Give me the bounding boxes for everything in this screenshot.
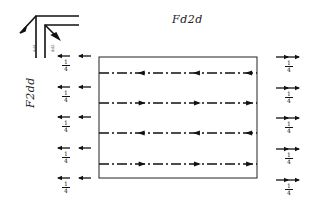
- fraction-denominator: 4: [285, 128, 293, 134]
- flow-line: [99, 130, 257, 135]
- arrow-left-icon: [78, 176, 91, 181]
- arrow-left-icon: [245, 70, 252, 75]
- fraction-quarter: 14: [62, 120, 70, 133]
- flow-line: [99, 100, 257, 105]
- arrow-left-icon: [138, 70, 145, 75]
- top-label: Fd2d: [172, 13, 203, 26]
- arrow-right-icon: [246, 100, 253, 105]
- arrow-left-icon: [78, 85, 91, 90]
- fraction-quarter: 14: [62, 59, 70, 72]
- arrow-left-icon: [193, 70, 200, 75]
- arrow-right-icon: [246, 161, 253, 166]
- arrow-left-icon: [193, 130, 200, 135]
- fraction-quarter: 14: [62, 151, 70, 164]
- fraction-denominator: 4: [285, 67, 293, 73]
- arrow-left-icon: [78, 54, 91, 59]
- fraction-denominator: 4: [62, 127, 70, 133]
- fraction-denominator: 4: [62, 188, 70, 194]
- fraction-denominator: 4: [285, 190, 293, 196]
- corner-left-label: ddd: [32, 44, 37, 52]
- fraction-denominator: 4: [285, 159, 293, 165]
- arrow-left-icon: [78, 146, 91, 151]
- corner-right-label: dd2: [50, 44, 55, 52]
- arrow-right-icon: [194, 100, 201, 105]
- arrow-right-icon: [139, 100, 146, 105]
- fraction-quarter: 14: [285, 121, 293, 134]
- flow-line: [99, 70, 257, 75]
- fraction-denominator: 4: [62, 97, 70, 103]
- diagram-canvas: [0, 0, 316, 208]
- domain-rectangle: [99, 57, 257, 178]
- fraction-denominator: 4: [285, 98, 293, 104]
- flow-lines: [99, 70, 257, 166]
- arrow-right-icon: [194, 161, 201, 166]
- fraction-denominator: 4: [62, 158, 70, 164]
- side-label: F2dd: [24, 77, 37, 108]
- flow-line: [99, 161, 257, 166]
- fraction-denominator: 4: [62, 66, 70, 72]
- fraction-quarter: 14: [62, 90, 70, 103]
- arrow-left-icon: [78, 115, 91, 120]
- fraction-quarter: 14: [285, 152, 293, 165]
- arrow-right-icon: [139, 161, 146, 166]
- arrow-left-icon: [245, 130, 252, 135]
- fraction-quarter: 14: [285, 91, 293, 104]
- fraction-quarter: 14: [285, 183, 293, 196]
- fraction-quarter: 14: [62, 181, 70, 194]
- fraction-quarter: 14: [285, 60, 293, 73]
- arrow-left-icon: [138, 130, 145, 135]
